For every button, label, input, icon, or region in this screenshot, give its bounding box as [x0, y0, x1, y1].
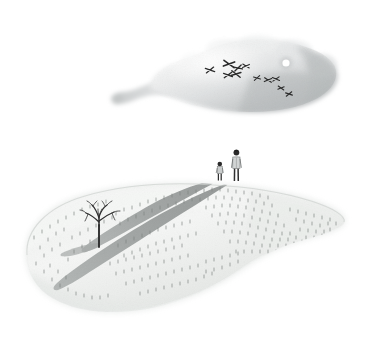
moon-icon	[280, 57, 292, 69]
artwork-svg	[0, 0, 366, 340]
illustration-canvas: Two Figures on a Floating Island Beneath…	[0, 0, 366, 340]
